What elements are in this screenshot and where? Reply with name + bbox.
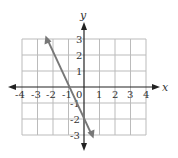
x-tick-labels: -4 -3 -2 -1 0 1 2 3 4 [15,89,149,100]
y-axis-up-arrow-icon [81,22,87,30]
y-axis-down-arrow-icon [81,143,87,151]
svg-text:-3: -3 [31,89,41,100]
svg-text:-2: -2 [70,114,80,125]
x-axis-label: x [162,81,169,94]
svg-text:1: 1 [76,66,82,77]
coordinate-plane: x y -4 -3 -2 -1 0 1 2 3 4 3 2 1 -1 -2 -3 [0,0,178,158]
svg-text:1: 1 [96,89,102,100]
svg-text:-3: -3 [70,130,80,141]
svg-text:4: 4 [143,89,149,100]
svg-text:-4: -4 [15,89,25,100]
svg-text:-2: -2 [46,89,56,100]
y-axis-label: y [79,9,87,22]
line-arrow-up-icon [45,36,52,45]
svg-text:2: 2 [76,50,82,61]
x-axis-right-arrow-icon [152,84,160,90]
svg-text:2: 2 [112,89,118,100]
svg-text:3: 3 [76,34,82,45]
svg-text:3: 3 [127,89,133,100]
line-arrow-down-icon [88,130,95,139]
